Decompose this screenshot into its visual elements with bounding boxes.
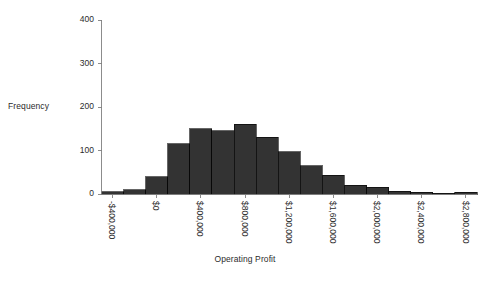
histogram-bar xyxy=(190,129,212,194)
histogram-bar xyxy=(168,144,190,194)
histogram-bar xyxy=(124,190,146,194)
histogram-bar xyxy=(212,131,234,194)
histogram-bar xyxy=(367,187,389,194)
bars-group xyxy=(102,124,478,194)
histogram-bar xyxy=(322,175,344,194)
histogram-chart: Frequency Operating Profit 0100200300400… xyxy=(0,0,490,283)
histogram-bar xyxy=(278,152,300,194)
histogram-bar xyxy=(344,185,366,194)
histogram-bar xyxy=(256,137,278,194)
histogram-bar xyxy=(146,177,168,194)
histogram-bar xyxy=(300,166,322,194)
plot-area xyxy=(0,0,490,283)
histogram-bar xyxy=(234,124,256,194)
